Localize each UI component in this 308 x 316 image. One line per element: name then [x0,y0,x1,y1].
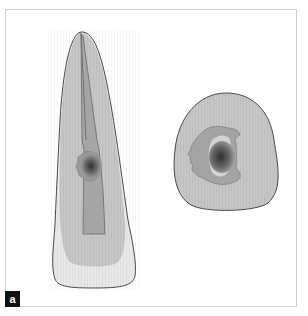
longitudinal-tooth [50,30,140,290]
dental-illustration [0,0,308,316]
cross-section [174,93,278,210]
cross-section-lesion [209,141,235,173]
panel-label: a [5,291,20,307]
lesion [80,153,102,179]
